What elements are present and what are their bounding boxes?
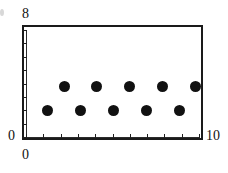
data-point bbox=[108, 105, 119, 116]
data-point bbox=[174, 105, 185, 116]
x-tick bbox=[113, 134, 114, 138]
plot-frame bbox=[22, 25, 203, 140]
x-axis-max-label: 10 bbox=[206, 129, 220, 143]
x-tick bbox=[95, 134, 96, 138]
scatter-plot-figure: 8 0 0 10 bbox=[0, 0, 228, 173]
scan-artifact bbox=[0, 9, 4, 16]
data-point bbox=[75, 105, 86, 116]
x-axis-min-label: 0 bbox=[22, 148, 29, 162]
x-tick bbox=[182, 134, 183, 138]
data-point bbox=[141, 105, 152, 116]
x-tick bbox=[147, 134, 148, 138]
x-tick bbox=[61, 134, 62, 138]
y-tick bbox=[22, 30, 27, 31]
data-point bbox=[42, 105, 53, 116]
y-tick bbox=[22, 124, 27, 125]
x-tick bbox=[26, 134, 27, 138]
x-tick bbox=[199, 134, 200, 138]
data-point bbox=[124, 81, 135, 92]
y-tick bbox=[22, 57, 27, 58]
y-tick bbox=[22, 84, 27, 85]
data-point bbox=[190, 81, 201, 92]
x-tick bbox=[130, 134, 131, 138]
x-tick bbox=[164, 134, 165, 138]
data-point bbox=[157, 81, 168, 92]
y-tick bbox=[22, 43, 27, 44]
data-point bbox=[59, 81, 70, 92]
y-axis-max-label: 8 bbox=[22, 7, 29, 21]
y-tick bbox=[22, 110, 27, 111]
x-tick bbox=[43, 134, 44, 138]
y-axis-min-label: 0 bbox=[8, 129, 15, 143]
y-tick bbox=[22, 97, 27, 98]
y-tick bbox=[22, 70, 27, 71]
x-tick bbox=[78, 134, 79, 138]
